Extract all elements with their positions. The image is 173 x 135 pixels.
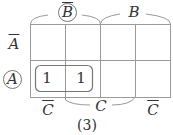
karnaugh-map: B B A A 1 1 C C C (3) xyxy=(0,0,173,135)
cell-a-bbar-c: 1 xyxy=(71,71,91,86)
cell-a-bbar-cbar: 1 xyxy=(37,71,57,86)
figure-caption: (3) xyxy=(72,118,102,132)
row-label-a: A xyxy=(3,70,22,89)
b-bar-text: B xyxy=(62,3,73,21)
c-bar-text-2: C xyxy=(147,101,158,119)
a-bar-text: A xyxy=(9,35,20,53)
bottom-label-c-bar-1: C xyxy=(40,103,56,118)
top-label-b-bar: B xyxy=(58,3,77,22)
bottom-label-c: C xyxy=(93,99,109,114)
top-label-b: B xyxy=(126,5,142,20)
bottom-label-c-bar-2: C xyxy=(145,103,161,118)
row-label-a-bar: A xyxy=(6,37,22,52)
c-bar-text-1: C xyxy=(42,101,53,119)
